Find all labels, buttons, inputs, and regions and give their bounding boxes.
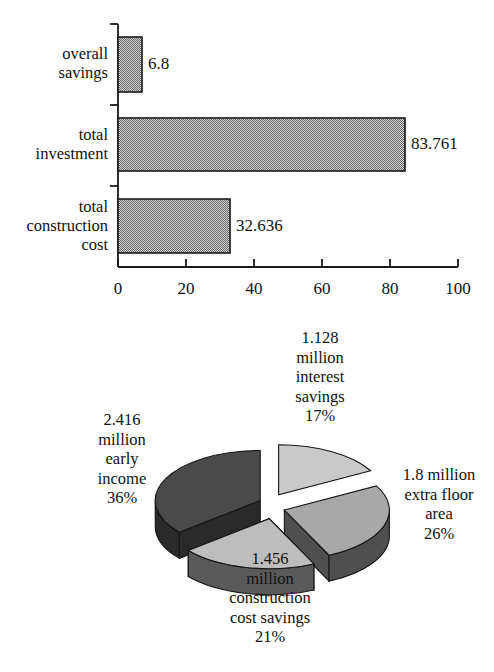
pie-label-line: 36%: [62, 488, 182, 508]
exploded-3d-pie-chart: 1.128 million interest savings 17% 1.8 m…: [0, 310, 494, 672]
bar-overall-savings: [118, 37, 142, 92]
pie-label-interest-savings: 1.128 million interest savings 17%: [255, 328, 385, 426]
bar-category-label-line: investment: [0, 144, 108, 163]
pie-label-line: million: [62, 430, 182, 450]
bar-category-label-total-construction-cost: total construction cost: [0, 197, 108, 254]
pie-label-line: extra floor: [386, 485, 492, 505]
bar-value-label-overall-savings: 6.8: [148, 54, 169, 73]
x-tick-label-20: 20: [166, 279, 206, 298]
pie-label-line: million: [190, 569, 350, 589]
pie-label-line: 1.8 million: [386, 465, 492, 485]
x-tick-label-60: 60: [302, 279, 342, 298]
pie-label-extra-floor-area: 1.8 million extra floor area 26%: [386, 465, 492, 543]
bar-category-label-overall-savings: overall savings: [10, 44, 108, 82]
bar-category-label-line: overall: [10, 44, 108, 63]
horizontal-bar-chart: overall savings total investment total c…: [0, 0, 494, 310]
pie-label-line: construction: [190, 588, 350, 608]
bar-category-label-total-investment: total investment: [0, 125, 108, 163]
pie-label-line: savings: [255, 387, 385, 407]
bar-category-label-line: cost: [0, 235, 108, 254]
pie-label-line: area: [386, 504, 492, 524]
pie-label-line: interest: [255, 367, 385, 387]
bar-total-investment: [118, 118, 405, 171]
pie-label-construction-cost-savings: 1.456 million construction cost savings …: [190, 549, 350, 647]
pie-label-line: 1.456: [190, 549, 350, 569]
x-tick-label-0: 0: [98, 279, 138, 298]
pie-label-line: 1.128: [255, 328, 385, 348]
bar-total-construction-cost: [118, 199, 230, 253]
pie-label-line: million: [255, 348, 385, 368]
bar-category-label-line: savings: [10, 63, 108, 82]
pie-label-line: income: [62, 469, 182, 489]
pie-label-line: early: [62, 449, 182, 469]
pie-slice-0-top: [279, 445, 371, 495]
bar-category-label-line: total: [0, 125, 108, 144]
x-tick-label-80: 80: [370, 279, 410, 298]
pie-label-line: cost savings: [190, 608, 350, 628]
bar-category-label-line: total: [0, 197, 108, 216]
pie-label-line: 26%: [386, 524, 492, 544]
pie-label-line: 21%: [190, 627, 350, 647]
x-tick-label-100: 100: [438, 279, 478, 298]
pie-label-line: 17%: [255, 406, 385, 426]
bar-category-label-line: construction: [0, 216, 108, 235]
bar-value-label-total-construction-cost: 32.636: [236, 216, 283, 235]
x-tick-label-40: 40: [234, 279, 274, 298]
bar-value-label-total-investment: 83.761: [411, 134, 458, 153]
pie-label-line: 2.416: [62, 410, 182, 430]
pie-label-early-income: 2.416 million early income 36%: [62, 410, 182, 508]
